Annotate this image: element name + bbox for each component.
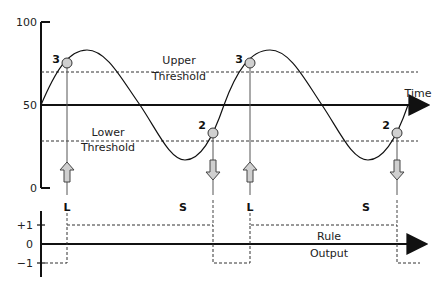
time-axis-label: Time [404,87,432,100]
marker-circle-2 [208,128,218,138]
up-arrow-icon [60,162,74,182]
y-tick-minus1: −1 [17,257,33,270]
signal-label-short: S [362,201,370,214]
signal-label-long: L [63,201,70,214]
rule-output-label-2: Output [310,247,349,260]
y-tick-50: 50 [23,99,37,112]
marker-label: 2 [382,119,390,132]
down-arrow-icon [206,160,220,180]
rule-output-label-1: Rule [317,230,341,243]
y-tick-0: 0 [30,182,37,195]
marker-label: 3 [52,53,60,66]
up-arrow-icon [243,162,257,182]
upper-threshold-label-2: Threshold [151,70,206,83]
signal-label-long: L [246,201,253,214]
rule-diagram: 100 50 0 Upper Threshold Lower Threshold… [0,0,443,289]
y-tick-plus1: +1 [17,219,33,232]
lower-threshold-label-1: Lower [92,126,125,139]
down-arrow-icon [390,160,404,180]
upper-threshold-label-1: Upper [162,54,196,67]
marker-circle-3 [245,58,255,68]
marker-label: 2 [198,119,206,132]
lower-threshold-label-2: Threshold [80,141,135,154]
signal-label-short: S [179,201,187,214]
y-tick-zero: 0 [26,238,33,251]
y-tick-100: 100 [16,16,37,29]
marker-circle-3 [62,58,72,68]
marker-label: 3 [235,53,243,66]
marker-circle-2 [392,128,402,138]
